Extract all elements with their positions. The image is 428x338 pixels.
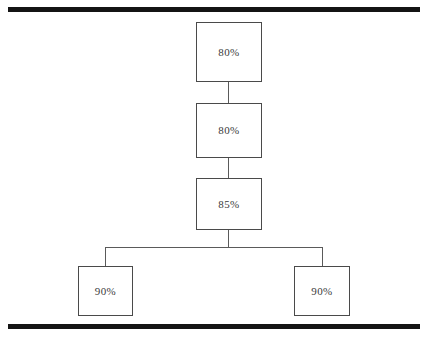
node-leaf-right-label: 90% [311, 286, 332, 297]
connector-bus-to-leaf-left [105, 247, 106, 266]
node-root-label: 80% [218, 47, 239, 58]
node-intermediate[interactable]: 80% [196, 103, 262, 158]
node-root[interactable]: 80% [196, 22, 262, 82]
connector-bus-to-leaf-right [322, 247, 323, 266]
node-branch-parent-label: 85% [218, 199, 239, 210]
top-divider-rule [8, 7, 420, 12]
connector-root-to-intermediate [228, 82, 229, 103]
node-branch-parent[interactable]: 85% [196, 178, 262, 230]
node-leaf-right[interactable]: 90% [294, 266, 350, 316]
connector-intermediate-to-branch-parent [228, 158, 229, 178]
diagram-canvas: 80% 80% 85% 90% 90% [0, 0, 428, 338]
connector-branch-parent-to-bus [228, 230, 229, 248]
node-intermediate-label: 80% [218, 125, 239, 136]
node-leaf-left-label: 90% [95, 286, 116, 297]
connector-horizontal-bus [105, 247, 323, 248]
bottom-divider-rule [8, 324, 420, 329]
node-leaf-left[interactable]: 90% [78, 266, 133, 316]
